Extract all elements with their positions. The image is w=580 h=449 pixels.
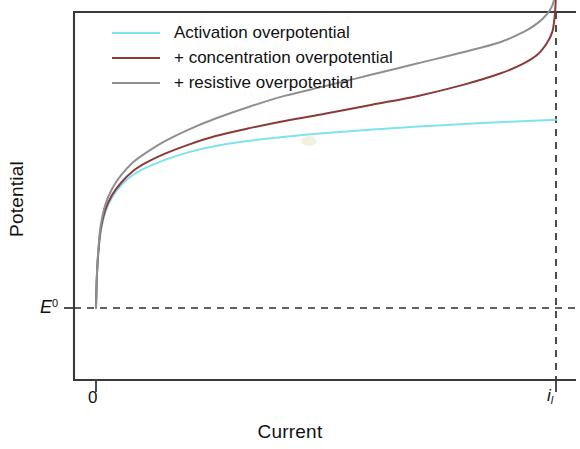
y-tick-label-equilibrium-potential: E0 <box>40 297 58 318</box>
curve-activation-overpotential <box>96 120 556 308</box>
figure-container: Potential Current 0 il E0 Activation ove… <box>0 0 580 449</box>
legend-label-activation: Activation overpotential <box>174 24 350 41</box>
x-tick-limit-subscript: l <box>551 394 553 406</box>
legend-item-resistive: + resistive overpotential <box>112 70 402 95</box>
x-tick-label-limiting-current: il <box>547 386 553 406</box>
legend-swatch-resistive <box>112 82 160 84</box>
x-axis-title: Current <box>0 421 580 443</box>
y-axis-title: Potential <box>6 144 28 254</box>
scan-artifact <box>301 136 317 146</box>
x-tick-label-zero: 0 <box>88 388 97 408</box>
legend-swatch-activation <box>112 32 160 34</box>
legend: Activation overpotential + concentration… <box>112 20 402 95</box>
legend-item-concentration: + concentration overpotential <box>112 45 402 70</box>
legend-label-resistive: + resistive overpotential <box>174 74 353 91</box>
legend-label-concentration: + concentration overpotential <box>174 49 393 66</box>
legend-swatch-concentration <box>112 57 160 59</box>
y-tick-e0-superscript: 0 <box>52 297 58 309</box>
y-tick-e0-symbol: E <box>40 297 52 317</box>
legend-item-activation: Activation overpotential <box>112 20 402 45</box>
